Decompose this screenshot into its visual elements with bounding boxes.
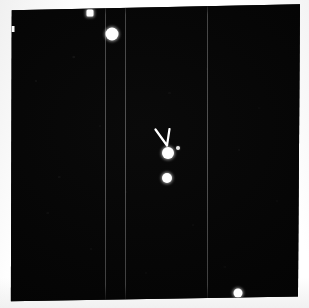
source-secondary [162, 173, 172, 183]
plate-scan-figure: Dark astronomical plate scan with bright… [0, 0, 309, 308]
scan-seam-1 [105, 3, 106, 303]
source-upper-small [87, 10, 94, 17]
scan-seam-2 [125, 3, 126, 303]
source-faint-right [176, 146, 180, 150]
emulsion-grain-layer [10, 3, 300, 303]
photographic-plate [10, 3, 300, 303]
source-primary [162, 147, 174, 159]
source-upper-bright [106, 27, 119, 40]
scan-seam-3 [207, 3, 208, 303]
source-lower-right [233, 288, 242, 297]
